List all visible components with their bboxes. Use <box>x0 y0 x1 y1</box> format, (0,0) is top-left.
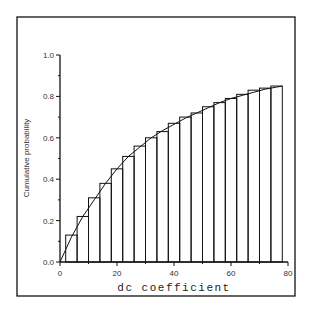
histogram-bar <box>89 198 100 262</box>
y-tick-label: 0.0 <box>43 258 55 267</box>
y-tick-label: 0.2 <box>43 217 55 226</box>
histogram-bar <box>100 183 111 262</box>
x-tick-label: 0 <box>58 269 63 278</box>
histogram-bar <box>260 88 271 262</box>
histogram-bar <box>111 169 122 262</box>
histogram-bar <box>123 156 134 262</box>
histogram-bar <box>225 98 236 262</box>
histogram-bar <box>191 113 202 262</box>
y-tick-label: 0.6 <box>43 134 55 143</box>
fitted-curve <box>60 86 282 262</box>
histogram-bar <box>157 132 168 262</box>
y-tick-label: 0.8 <box>43 92 55 101</box>
histogram-bar <box>180 117 191 262</box>
y-tick-label: 0.4 <box>43 175 55 184</box>
x-axis-label: dc coefficient <box>117 282 230 294</box>
histogram-bar <box>168 123 179 262</box>
histogram-bar <box>66 235 77 262</box>
histogram-bar <box>146 138 157 262</box>
histogram-bar <box>237 94 248 262</box>
histogram-bars <box>66 86 283 262</box>
y-tick-label: 1.0 <box>43 51 55 60</box>
x-tick-label: 60 <box>227 269 236 278</box>
chart-border <box>17 17 295 296</box>
cumulative-probability-chart: 0.00.20.40.60.81.0020406080 dc coefficie… <box>0 0 310 315</box>
x-tick-label: 40 <box>170 269 179 278</box>
x-tick-label: 80 <box>284 269 293 278</box>
histogram-bar <box>214 103 225 262</box>
histogram-bar <box>248 90 259 262</box>
y-axis-label: Cumulative probability <box>22 119 31 198</box>
histogram-bar <box>271 86 282 262</box>
x-tick-label: 20 <box>113 269 122 278</box>
histogram-bar <box>134 146 145 262</box>
histogram-bar <box>203 107 214 262</box>
